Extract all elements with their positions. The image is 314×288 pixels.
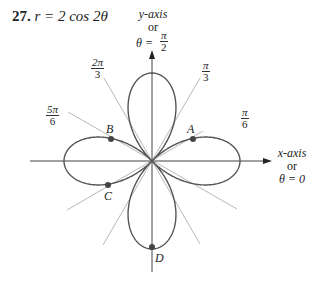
y-axis-label: y-axis or (130, 8, 176, 34)
point-label-b: B (106, 122, 113, 137)
y-axis-or: or (130, 21, 176, 34)
angle-label-pi-6: π 6 (241, 107, 249, 130)
marked-points (105, 136, 196, 250)
point-label-c: C (104, 189, 112, 204)
ray-pi-6 (67, 131, 203, 210)
angle-label-pi-3: π 3 (202, 60, 210, 83)
y-axis-theta-text: θ = (136, 36, 153, 50)
point-label-a: A (187, 122, 194, 137)
point-label-d: D (155, 251, 164, 266)
angle-label-5pi-6: 5π 6 (46, 104, 59, 127)
angle-label-2pi-3: 2π 3 (91, 57, 104, 80)
y-axis-angle-fraction: π 2 (160, 30, 168, 53)
point-c (105, 182, 111, 188)
y-axis-arrow-icon (149, 50, 155, 59)
polar-plot (0, 0, 314, 288)
x-axis-label: x-axis or θ = 0 (270, 147, 314, 186)
y-axis-theta: θ = (136, 37, 153, 50)
point-d (149, 244, 155, 250)
x-axis-theta: θ = 0 (270, 173, 314, 186)
